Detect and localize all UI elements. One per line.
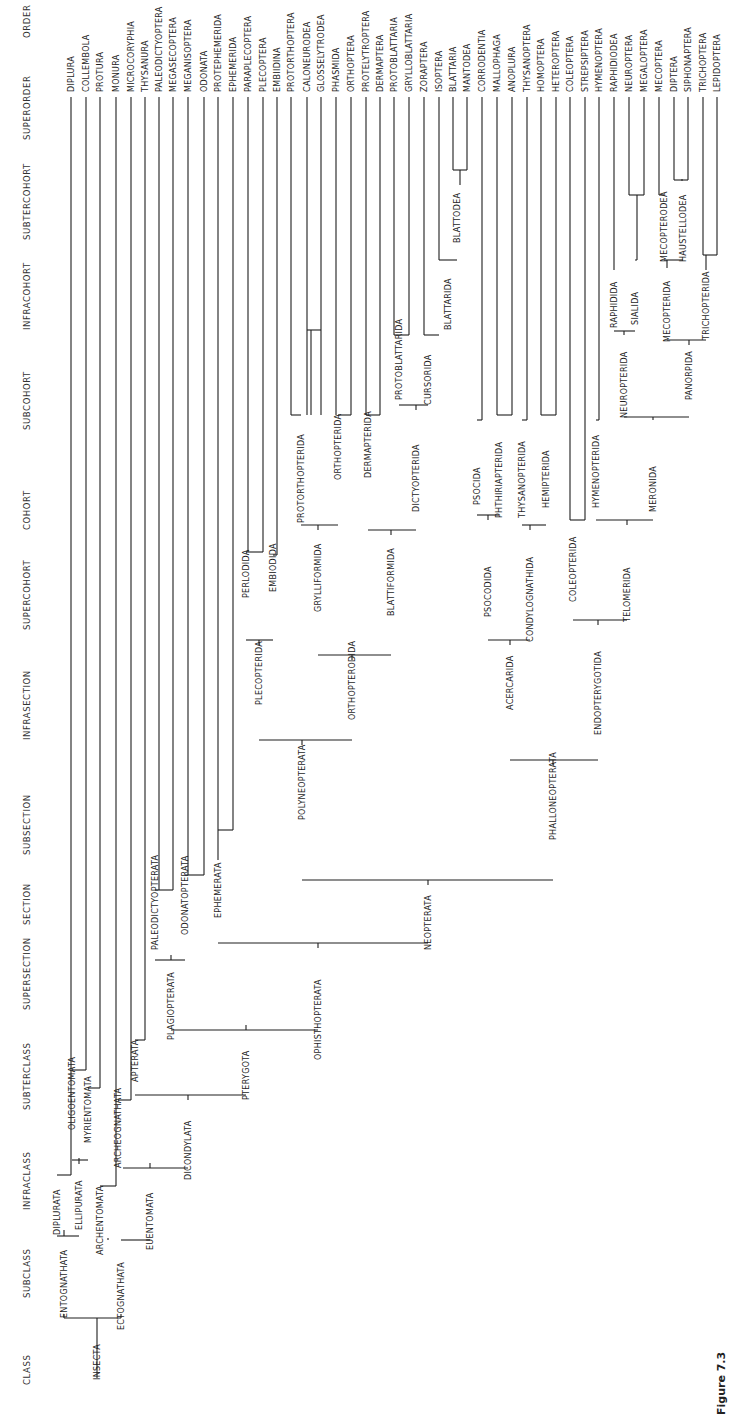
order-label: EMBIIDINA [273,47,282,92]
order-label: MANTODEA [463,43,472,92]
order-label: ISOPTERA [435,50,444,92]
clade-label: TRICHOPTERIDA [702,271,711,341]
rank-label: COHORT [22,490,32,530]
order-label: EPHEMERIDA [229,36,238,92]
order-label: DERMAPTERA [376,34,385,92]
order-label: MEGASECOPTERA [169,17,178,92]
order-label: PROTOBLATTARIA [390,17,399,92]
order-label: PROTURA [96,52,105,92]
clade-label: PHTHIRIAPTERIDA [495,442,504,518]
order-label: LEPIDOPTERA [713,34,722,92]
clade-label: NEUROPTERIDA [620,351,629,418]
order-label: ZORAPTERA [420,41,429,92]
rank-label: INFRASECTION [22,670,32,740]
rank-label: SUBTERCLASS [22,1042,32,1110]
clade-label: ACERCARIDA [506,655,515,710]
clade-label: DIPLURATA [53,1189,62,1235]
clade-label: PLAGIOPTERATA [167,972,176,1040]
order-label: PLECOPTERA [259,37,268,92]
rank-label: SUPERORDER [22,76,32,140]
clade-label: PHALLONEOPTERATA [549,752,558,840]
rank-label: CLASS [22,1355,32,1385]
rank-label: SUPERCOHORT [22,559,32,630]
order-label: HYMENOPTERA [595,28,604,92]
order-label: THYSANURA [141,40,150,93]
rank-label: SUBTERCOHORT [22,163,32,240]
order-label: TRICHOPTERA [699,32,708,93]
order-label: MALLOPHAGA [493,34,502,92]
clade-label: CONDYLOGNATHIDA [526,557,535,642]
clade-label: INSECTA [93,1344,102,1380]
cladogram-figure: CLASSSUBCLASSINFRACLASSSUBTERCLASSSUPERS… [0,0,733,1419]
clade-label: PSOCODIDA [484,566,493,617]
clade-label: ARCHENTOMATA [96,1185,105,1255]
clade-label: NEOPTERATA [424,895,433,950]
rank-label: SUBCOHORT [22,371,32,430]
clade-label: BLATTARIDA [444,278,453,330]
clade-label: ARCHEOGNATHATA [114,1087,123,1168]
order-label: COLLEMBOLA [82,34,91,92]
clade-label: COLEOPTERIDA [569,536,578,602]
order-label: MEGANISOPTERA [184,19,193,92]
order-label: MONURA [112,54,121,92]
clade-label: ECTOGNATHATA [117,1262,126,1330]
order-label: STREPSIPTERA [581,30,590,92]
clade-label: HYMENOPTERIDA [592,435,601,508]
rank-label: INFRACLASS [22,1152,32,1210]
rank-label: SUBSECTION [22,794,32,855]
order-label: GLOSSELYTRODEA [317,14,326,92]
insect-classification-tree: CLASSSUBCLASSINFRACLASSSUBTERCLASSSUPERS… [0,0,733,1419]
order-label: DIPTERA [670,56,679,92]
clade-label: GRYLLIFORMIDA [314,543,323,612]
order-label: PROTORTHOPTERA [287,12,296,92]
order-label: CALONEURODEA [303,21,312,92]
clade-label: EPHEMERATA [214,862,223,918]
clade-label: OLIGOENTOMATA [68,1057,77,1130]
rank-label: INFRACOHORT [22,262,32,330]
order-label: NEUROPTERA [625,35,634,92]
clade-label: BLATTIFORMIDA [387,548,396,616]
rank-label: SECTION [22,883,32,925]
clade-label: DICTYOPTERIDA [412,444,421,512]
order-label: DIPLURA [67,56,76,92]
rank-label: ORDER [22,5,32,38]
order-label: SIPHONAPTERA [684,27,693,92]
clade-label: RAPHIDIDA [610,281,619,328]
clade-label: ORTHOPTERODIDA [348,640,357,720]
order-label: BLATTARIA [449,46,458,92]
clade-label: POLYNEOPTERATA [298,744,307,820]
clade-label: PROTORTHOPTERIDA [297,434,306,523]
order-label: MECOPTERA [655,40,664,92]
clade-label: ODONATOPTERATA [181,855,190,935]
order-label: MEGALOPTERA [640,29,649,92]
clade-label: EMBIODIDA [269,543,278,592]
order-label: THYSANOPTERA [523,24,532,93]
clade-label: PROTOBLATTARIDA [395,319,404,400]
order-label: ORTHOPTERA [347,35,356,92]
order-label: COLEOPTERA [566,36,575,92]
order-label: PROTEPHEMERIDA [214,14,223,92]
clade-label: HAUSTELLODEA [679,194,688,262]
clade-label: MECOPTERIDA [663,280,672,342]
order-label: GRYLLOBLATTARIA [405,13,414,92]
clade-label: ELLIPURATA [75,1180,84,1230]
clade-label: EUENTOMATA [146,1192,155,1250]
clade-label: HEMIPTERIDA [542,450,551,508]
rank-label: SUBCLASS [22,1248,32,1298]
order-labels: DIPLURACOLLEMBOLAPROTURAMONURAMICROCORYP… [67,6,722,93]
figure-caption: Figure 7.3 [715,1352,728,1415]
clade-label: PSOCIDA [473,467,482,505]
clade-label: MECOPTERODEA [660,191,669,262]
clade-label: PANORPIDA [685,351,694,400]
order-label: PHASMIDA [332,47,341,92]
order-label: PROTELYTROPTERA [362,10,371,92]
clade-label: PERLODIDA [242,549,251,598]
rank-axis-labels: CLASSSUBCLASSINFRACLASSSUBTERCLASSSUPERS… [22,5,32,1385]
rank-label: SUPERSECTION [22,937,32,1010]
clade-label: ENTOGNATHATA [60,1249,69,1318]
clade-label: ORTHOPTERIDA [334,414,343,480]
clade-label: SIALIDA [631,291,640,325]
clade-label: DICONDYLATA [184,1120,193,1180]
clade-labels: INSECTAENTOGNATHATAECTOGNATHATADIPLURATA… [53,191,728,1415]
clade-label: ENDOPTERYGOTIDA [594,651,603,735]
